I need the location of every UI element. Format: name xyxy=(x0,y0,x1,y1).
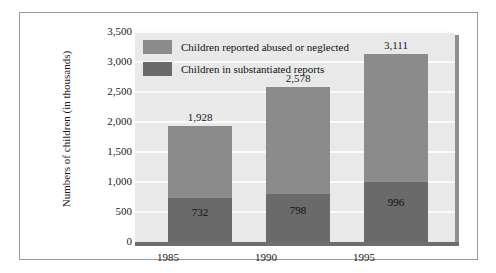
legend-swatch-substantiated-icon xyxy=(143,62,172,76)
stacked-bar-chart: Numbers of children (in thousands) 3,500… xyxy=(20,13,477,259)
bar-substantiated-label-1985: 732 xyxy=(168,206,232,218)
x-tick-1990: 1990 xyxy=(221,251,311,263)
bar-substantiated-1995[interactable] xyxy=(364,182,428,242)
bar-group-1985[interactable]: 732 xyxy=(168,126,232,242)
bar-substantiated-1990[interactable] xyxy=(266,194,330,242)
bar-total-label-1995: 3,111 xyxy=(364,39,428,51)
y-tick-1500: 1,500 xyxy=(86,146,132,157)
gridline-3500 xyxy=(135,31,455,33)
legend-swatch-reported-icon xyxy=(143,40,172,54)
y-tick-2000: 2,000 xyxy=(86,116,132,127)
x-tick-1985: 1985 xyxy=(123,251,213,263)
bar-group-1995[interactable]: 996 xyxy=(364,54,428,242)
x-tick-1995: 1995 xyxy=(319,251,409,263)
bar-total-label-1985: 1,928 xyxy=(168,111,232,123)
chart-figure-frame: Numbers of children (in thousands) 3,500… xyxy=(19,12,478,260)
bar-substantiated-label-1990: 798 xyxy=(266,204,330,216)
bar-substantiated-1985[interactable] xyxy=(168,198,232,242)
bar-group-1990[interactable]: 798 xyxy=(266,87,330,242)
legend-label-substantiated: Children in substantiated reports xyxy=(181,62,324,76)
y-tick-0: 0 xyxy=(86,236,132,247)
x-axis-line xyxy=(135,242,459,246)
legend-label-reported: Children reported abused or neglected xyxy=(181,40,349,54)
y-tick-500: 500 xyxy=(86,206,132,217)
bar-substantiated-label-1995: 996 xyxy=(364,196,428,208)
y-axis-tick-labels: 3,500 3,000 2,500 2,000 1,500 1,000 500 … xyxy=(86,13,132,273)
y-tick-3500: 3,500 xyxy=(86,26,132,37)
y-tick-1000: 1,000 xyxy=(86,176,132,187)
y-tick-2500: 2,500 xyxy=(86,86,132,97)
y-axis-title: Numbers of children (in thousands) xyxy=(60,39,72,219)
y-tick-3000: 3,000 xyxy=(86,56,132,67)
